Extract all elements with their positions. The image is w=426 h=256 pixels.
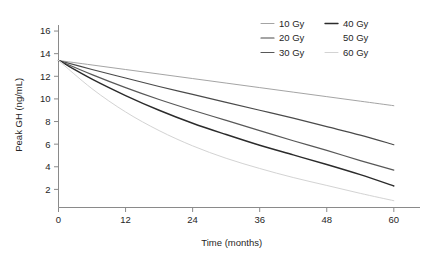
x-axis-title: Time (months) [201, 237, 262, 248]
y-tick-label: 2 [45, 184, 50, 195]
legend-label-60-gy: 60 Gy [343, 47, 369, 58]
y-tick-label: 16 [40, 25, 51, 36]
y-tick-label: 14 [40, 48, 51, 59]
x-tick-label: 60 [389, 214, 400, 225]
x-tick-label: 12 [120, 214, 131, 225]
y-tick-label: 6 [45, 139, 50, 150]
y-axis-title: Peak GH (ng/mL) [13, 78, 24, 152]
legend-label-40-gy: 40 Gy [343, 18, 369, 29]
y-tick-label: 4 [45, 161, 50, 172]
y-tick-label: 8 [45, 116, 50, 127]
x-tick-label: 0 [56, 214, 61, 225]
chart-figure: 246810121416 01224364860 Time (months)Pe… [0, 0, 426, 256]
line-chart: 246810121416 01224364860 Time (months)Pe… [0, 0, 426, 256]
x-tick-label: 24 [187, 214, 198, 225]
legend-label-50-gy: 50 Gy [343, 32, 369, 43]
legend-label-10-gy: 10 Gy [279, 18, 305, 29]
legend-label-30-gy: 30 Gy [279, 47, 305, 58]
x-tick-label: 48 [321, 214, 332, 225]
y-tick-label: 12 [40, 71, 51, 82]
x-tick-label: 36 [254, 214, 265, 225]
y-tick-label: 10 [40, 93, 51, 104]
legend-label-20-gy: 20 Gy [279, 32, 305, 43]
